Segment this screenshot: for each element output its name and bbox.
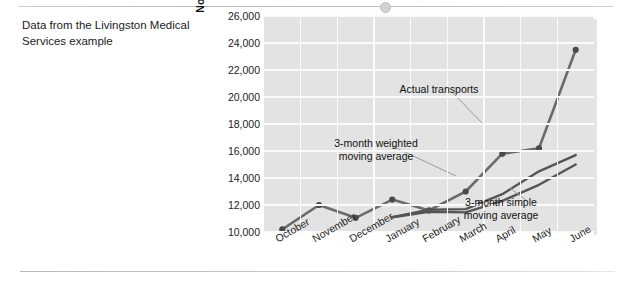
x-axis-tick-labels: OctoberNovemberDecemberJanuaryFebruaryMa…: [264, 234, 594, 278]
plot-shadow: [594, 19, 597, 235]
gridline-horizontal: [264, 204, 594, 206]
gridline-horizontal: [264, 177, 594, 179]
gridline-horizontal: [264, 123, 594, 125]
y-axis-title: Nonemergency Medical Transports: [194, 0, 208, 22]
plot-area: [264, 16, 594, 232]
top-divider: [18, 6, 613, 7]
y-axis-tick-label: 16,000: [228, 145, 260, 157]
annotation-actual-transports: Actual transports: [400, 83, 479, 96]
gridline-vertical: [447, 16, 449, 232]
annotation-weighted-line1: 3-month weighted: [334, 137, 417, 150]
line-chart: Nonemergency Medical Transports 10,00012…: [196, 8, 628, 266]
annotation-simple-line2: moving average: [464, 209, 539, 222]
annotation-simple-average: 3-month simple moving average: [464, 196, 539, 222]
gridline-vertical: [557, 16, 559, 232]
annotation-simple-line1: 3-month simple: [464, 196, 539, 209]
y-axis-tick-labels: 10,00012,00014,00016,00018,00020,00022,0…: [210, 8, 260, 232]
gridline-vertical: [300, 16, 302, 232]
caption-text: Data from the Livingston Medical Service…: [22, 18, 197, 49]
data-point-marker: [463, 188, 469, 194]
gridline-horizontal: [264, 96, 594, 98]
y-axis-tick-label: 14,000: [228, 172, 260, 184]
gridline-horizontal: [264, 15, 594, 17]
annotation-actual-line1: Actual transports: [400, 83, 479, 96]
y-axis-tick-label: 12,000: [228, 199, 260, 211]
data-point-marker: [389, 197, 395, 203]
y-axis-tick-label: 20,000: [228, 91, 260, 103]
gridline-vertical: [373, 16, 375, 232]
gridline-horizontal: [264, 69, 594, 71]
data-point-marker: [573, 47, 579, 53]
gridline-vertical: [337, 16, 339, 232]
y-axis-tick-label: 26,000: [228, 10, 260, 22]
y-axis-tick-label: 18,000: [228, 118, 260, 130]
gridline-horizontal: [264, 42, 594, 44]
annotation-weighted-average: 3-month weighted moving average: [334, 137, 417, 163]
y-axis-tick-label: 24,000: [228, 37, 260, 49]
y-axis-tick-label: 22,000: [228, 64, 260, 76]
gridline-vertical: [410, 16, 412, 232]
gridline-horizontal: [264, 150, 594, 152]
annotation-weighted-line2: moving average: [334, 150, 417, 163]
y-axis-tick-label: 10,000: [228, 226, 260, 238]
